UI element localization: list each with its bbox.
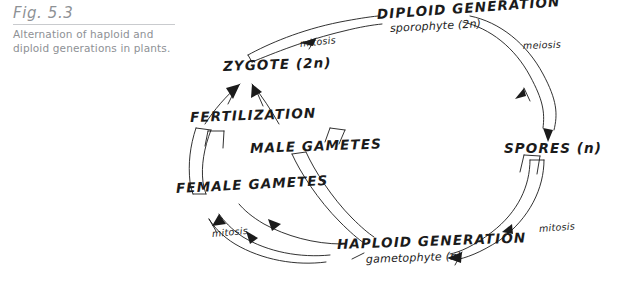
figure-page: Fig. 5.3 Alternation of haploid and dipl… bbox=[0, 0, 625, 281]
label-spores: SPORES (n) bbox=[504, 140, 602, 156]
bracket-gametophyte bbox=[352, 253, 364, 259]
band-male-gametes-to-haploid bbox=[292, 152, 374, 243]
label-meiosis: meiosis bbox=[523, 39, 562, 51]
arrow-diploid-to-spores bbox=[463, 16, 556, 142]
